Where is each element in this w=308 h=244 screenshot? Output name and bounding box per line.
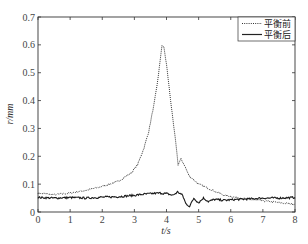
x-tick-label: 5 [196,214,201,225]
line-chart: 012345678 00.10.20.30.40.50.60.7 t/s r/m… [0,0,308,244]
y-tick-label: 0.5 [23,67,36,78]
x-tick-label: 1 [68,214,73,225]
legend-label-after: 平衡后 [264,29,291,40]
x-tick-label: 0 [36,214,41,225]
series-line-before-balance [38,45,295,205]
plot-frame [38,17,295,212]
x-tick-label: 7 [260,214,265,225]
y-tick-label: 0.3 [23,123,36,134]
y-tick-label: 0.2 [23,151,36,162]
x-tick-label: 6 [228,214,233,225]
y-tick-label: 0 [30,207,35,218]
x-tick-label: 2 [100,214,105,225]
y-tick-label: 0.6 [23,39,36,50]
legend-label-before: 平衡前 [264,18,291,29]
x-tick-label: 3 [132,214,137,225]
y-tick-label: 0.4 [23,95,36,106]
y-tick-label: 0.7 [23,12,36,23]
series-layer [38,45,295,207]
y-axis-label: r/mm [4,103,15,124]
y-ticks: 00.10.20.30.40.50.60.7 [23,12,296,218]
x-ticks: 012345678 [36,17,298,225]
x-tick-label: 8 [293,214,298,225]
x-tick-label: 4 [164,214,169,225]
x-axis-label: t/s [161,225,171,236]
y-tick-label: 0.1 [23,179,36,190]
series-line-after-balance [38,191,295,206]
legend: 平衡前 平衡后 [238,17,295,41]
